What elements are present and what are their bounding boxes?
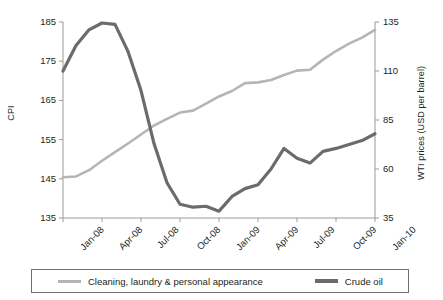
series-line-cleaning-laundry-personal-appearance [63, 30, 375, 177]
legend-swatch-icon-crude-oil [315, 279, 338, 283]
legend-item-crude-oil: Crude oil [315, 270, 383, 292]
series-line-crude-oil [63, 23, 375, 211]
legend-swatch-icon-cleaning [58, 280, 81, 283]
legend-label-cleaning: Cleaning, laundry & personal appearance [88, 276, 263, 287]
axis-tickmarks [59, 22, 379, 222]
legend-label-crude-oil: Crude oil [345, 276, 383, 287]
chart-legend: Cleaning, laundry & personal appearance … [31, 269, 409, 293]
plot-area [0, 0, 443, 300]
chart-container: CPI WTI prices (USD per barrel) 13514515… [0, 0, 443, 300]
legend-item-cleaning-laundry-personal-appearance: Cleaning, laundry & personal appearance [58, 270, 263, 292]
